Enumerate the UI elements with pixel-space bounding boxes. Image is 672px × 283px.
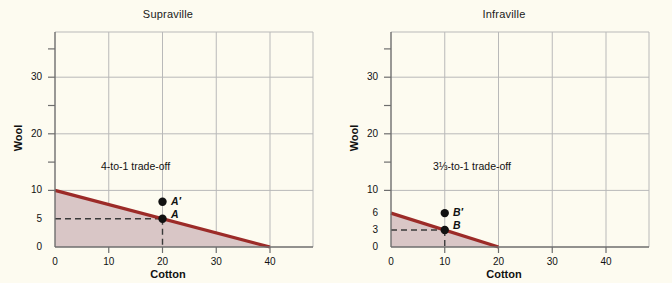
x-tick-label-10: 10 bbox=[95, 256, 123, 267]
chart-panel-infraville: Infraville bbox=[336, 0, 672, 283]
tradeoff-label-infraville: 3⅓-to-1 trade-off bbox=[433, 160, 511, 172]
x-tick-label-10: 10 bbox=[431, 256, 459, 267]
y-tick-label-10: 10 bbox=[350, 184, 378, 195]
y-tick-label-0: 0 bbox=[14, 241, 42, 252]
y-tick-label-3: 3 bbox=[350, 224, 378, 235]
point-label-a: A bbox=[171, 208, 179, 220]
plot-area-supraville bbox=[0, 0, 336, 283]
chart-panel-supraville: Supraville bbox=[0, 0, 336, 283]
x-tick-label-40: 40 bbox=[256, 256, 284, 267]
y-tick-label-5: 5 bbox=[14, 213, 42, 224]
data-point-b bbox=[441, 226, 449, 234]
x-tick-label-30: 30 bbox=[202, 256, 230, 267]
axes-infraville bbox=[384, 32, 649, 253]
ppf-comparison-figure: Supraville bbox=[0, 0, 672, 283]
data-point-a bbox=[158, 215, 166, 223]
point-label-a-prime: A′ bbox=[171, 195, 181, 207]
point-label-b: B bbox=[453, 219, 461, 231]
x-tick-label-30: 30 bbox=[538, 256, 566, 267]
y-tick-label-10: 10 bbox=[14, 184, 42, 195]
y-tick-label-6: 6 bbox=[350, 207, 378, 218]
x-tick-label-0: 0 bbox=[377, 256, 405, 267]
x-axis-title-supraville: Cotton bbox=[128, 268, 208, 280]
y-tick-label-0: 0 bbox=[350, 241, 378, 252]
data-point-a-prime bbox=[158, 198, 166, 206]
point-label-b-prime: B′ bbox=[453, 206, 463, 218]
grid-lines-infraville bbox=[391, 32, 649, 247]
x-tick-label-40: 40 bbox=[592, 256, 620, 267]
y-tick-label-30: 30 bbox=[14, 71, 42, 82]
y-tick-label-30: 30 bbox=[350, 71, 378, 82]
plot-area-infraville bbox=[336, 0, 672, 283]
y-axis-title-supraville: Wool bbox=[12, 118, 24, 158]
y-axis-title-infraville: Wool bbox=[348, 118, 360, 158]
x-axis-title-infraville: Cotton bbox=[464, 268, 544, 280]
data-point-b-prime bbox=[441, 209, 449, 217]
tradeoff-label-supraville: 4-to-1 trade-off bbox=[101, 160, 170, 172]
x-tick-label-20: 20 bbox=[485, 256, 513, 267]
x-tick-label-20: 20 bbox=[149, 256, 177, 267]
x-tick-label-0: 0 bbox=[41, 256, 69, 267]
